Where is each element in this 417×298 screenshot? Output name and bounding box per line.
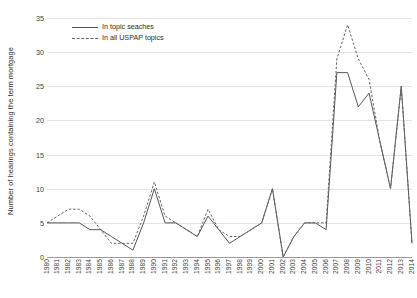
x-tick-label: 2006: [322, 259, 331, 274]
x-tick-label: 2010: [365, 259, 374, 274]
x-tick-label: 2014: [408, 259, 417, 274]
legend-line-dashed-icon: [72, 38, 98, 39]
x-tick-label: 1985: [96, 259, 105, 274]
x-tick-label: 1998: [236, 259, 245, 274]
x-tick-label: 1991: [161, 259, 170, 274]
x-tick-label: 1984: [85, 259, 94, 274]
plot-area: [47, 18, 412, 257]
x-tick-label: 1980: [43, 259, 52, 274]
x-tick-label: 2005: [311, 259, 320, 274]
x-tick-label: 2009: [354, 259, 363, 274]
line-chart: Number of hearings containing the term m…: [0, 0, 417, 298]
x-tick-label: 1997: [225, 259, 234, 274]
legend-label-topic-searches: In topic seaches: [102, 22, 154, 31]
x-tick-label: 2013: [397, 259, 406, 274]
x-tick-label: 1987: [118, 259, 127, 274]
series-line-topic-searches: [47, 73, 412, 257]
x-tick-label: 2000: [257, 259, 266, 274]
legend-line-solid-icon: [72, 27, 98, 28]
x-tick-label: 1990: [150, 259, 159, 274]
y-tick-label: 10: [14, 184, 44, 193]
legend-item-all-uspap-topics: In all USPAP topics: [72, 34, 202, 44]
x-tick-label: 1986: [107, 259, 116, 274]
x-tick-label: 1988: [128, 259, 137, 274]
x-tick-label: 1983: [75, 259, 84, 274]
y-tick-label: 15: [14, 150, 44, 159]
y-tick-label: 30: [14, 48, 44, 57]
series-line-all-uspap-topics: [47, 25, 412, 257]
series-lines: [47, 18, 412, 257]
x-tick-label: 1992: [171, 259, 180, 274]
x-tick-label: 2004: [300, 259, 309, 274]
x-tick-label: 1994: [193, 259, 202, 274]
chart-legend: In topic seaches In all USPAP topics: [72, 23, 202, 47]
y-tick-label: 35: [14, 14, 44, 23]
y-tick-label: 20: [14, 116, 44, 125]
x-tick-label: 1993: [182, 259, 191, 274]
x-tick-label: 2007: [332, 259, 341, 274]
y-tick-label: 0: [14, 253, 44, 262]
y-tick-label: 25: [14, 82, 44, 91]
y-axis-tick-labels: 05101520253035: [14, 0, 44, 298]
x-tick-label: 2008: [343, 259, 352, 274]
x-tick-label: 2002: [279, 259, 288, 274]
x-tick-label: 1982: [64, 259, 73, 274]
legend-item-topic-searches: In topic seaches: [72, 23, 202, 33]
x-tick-label: 1989: [139, 259, 148, 274]
x-tick-label: 2012: [386, 259, 395, 274]
x-tick-label: 1981: [53, 259, 62, 274]
x-tick-label: 2001: [268, 259, 277, 274]
x-tick-label: 1999: [246, 259, 255, 274]
x-axis-line: [47, 257, 412, 258]
x-tick-label: 1996: [214, 259, 223, 274]
x-tick-label: 2003: [289, 259, 298, 274]
x-axis-tick-labels: 1980198119821983198419851986198719881989…: [47, 259, 412, 298]
y-tick-label: 5: [14, 218, 44, 227]
x-tick-label: 1995: [204, 259, 213, 274]
x-tick-label: 2011: [375, 259, 384, 274]
legend-label-all-uspap-topics: In all USPAP topics: [102, 33, 164, 42]
